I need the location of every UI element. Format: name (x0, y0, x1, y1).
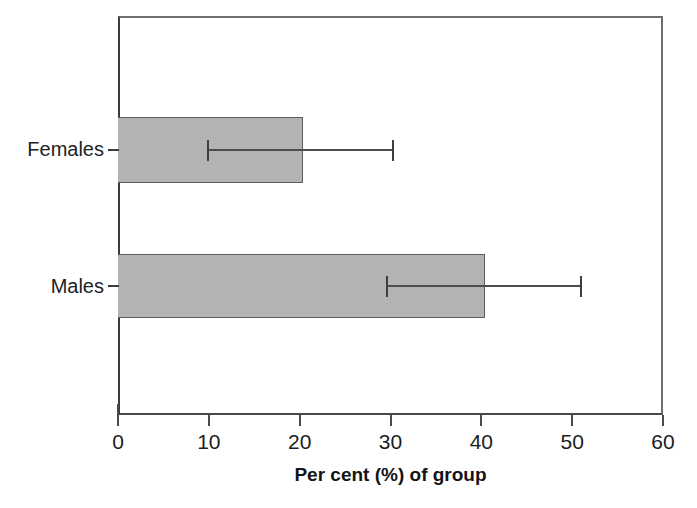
errorbar-cap-lower-males (386, 276, 388, 297)
ycategory-label-males: Males (0, 275, 104, 298)
x-tick-label-10: 10 (179, 430, 239, 454)
plot-frame (118, 16, 663, 415)
ytick-males (108, 285, 119, 287)
errorbar-line-females (207, 149, 392, 151)
errorbar-cap-upper-females (392, 140, 394, 161)
x-tick-10 (208, 415, 210, 426)
x-tick-label-0: 0 (88, 430, 148, 454)
x-tick-label-50: 50 (542, 430, 602, 454)
x-tick-label-60: 60 (633, 430, 693, 454)
x-tick-label-40: 40 (451, 430, 511, 454)
x-tick-0 (117, 404, 119, 426)
x-tick-30 (390, 415, 392, 426)
x-tick-label-20: 20 (270, 430, 330, 454)
errorbar-line-males (386, 285, 580, 287)
x-tick-20 (299, 415, 301, 426)
ycategory-label-females: Females (0, 138, 104, 161)
x-tick-60 (662, 415, 664, 426)
x-tick-50 (571, 415, 573, 426)
ytick-females (108, 149, 119, 151)
bar-chart-figure: Females Males 0102030405060 Per cent (%)… (0, 0, 697, 508)
x-tick-label-30: 30 (361, 430, 421, 454)
errorbar-cap-upper-males (580, 276, 582, 297)
x-tick-40 (480, 415, 482, 426)
errorbar-cap-lower-females (207, 140, 209, 161)
x-axis-title: Per cent (%) of group (118, 464, 663, 486)
